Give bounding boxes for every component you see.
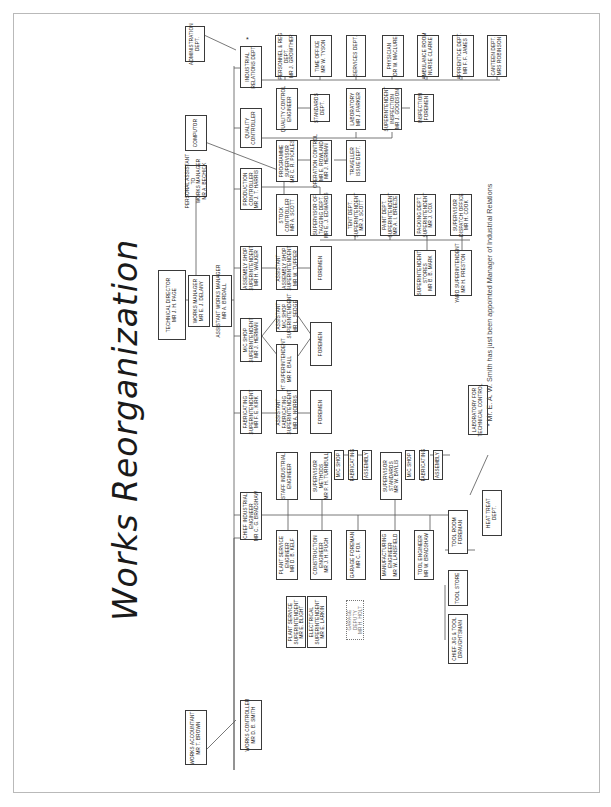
box-label: ELECTRICAL SUPERINTENDENT MR E. LARKIN (309, 600, 326, 645)
chief-industrial-engineer-box: CHIEF INDUSTRIAL ENGINEER MR C. G. BRADS… (240, 492, 262, 540)
box-label: PERSONAL ASSISTANT TO WORKS MANAGER MR A… (185, 154, 207, 209)
box-label: TIME OFFICE MR W. TYSON (315, 40, 326, 73)
chief-jig-tool-box: CHIEF JIG & TOOL DRAUGHTSMAN (448, 614, 468, 664)
supervisor-tagging-box: SUPERVISOR OF TAGGING DEPT. MR E. J. EDW… (310, 194, 332, 236)
box-label: SUPERVISOR OF TAGGING DEPT. MR E. J. EDW… (313, 192, 330, 237)
box-label: FABRICATING SUPERINTENDENT MR F. E. KIRK (243, 390, 260, 435)
connector-lines (0, 0, 611, 807)
services-dept-box: SERVICES DEPT. (346, 35, 366, 77)
box-label: ASSISTANT M/C SHOP SUPERINTENDENT MR L. … (276, 294, 298, 339)
box-label: FOREMEN (318, 400, 324, 424)
electrical-superintendent-box: ELECTRICAL SUPERINTENDENT MR E. LARKIN (307, 596, 327, 648)
box-label: QUALITY CONTROLLER (245, 111, 256, 144)
supervisor-methods-box: SUPERVISOR METHODS MR P. H. TURNBULL (310, 452, 332, 500)
box-label: SUPERINTENDENT STORES MR B. B. MARK (417, 251, 434, 296)
box-label: STAFF INDUSTRIAL ENGINEER (281, 453, 292, 499)
administration-dept-box: ADMINISTRATION DEPT. (185, 26, 205, 62)
superintendent-inspection-box: SUPERINTENDENT INSPECTION MR J. GOODSON (382, 88, 402, 130)
personnel-dept-box: PERSONNEL & REG DEPT. MR J. GROWTHER (275, 35, 297, 77)
apprentice-dept-box: APPRENTICE DEPT. MR F. F. JAMES (452, 35, 474, 77)
industrial-relations-dept-box: INDUSTRIAL RELATIONS DEPT. (240, 46, 262, 88)
box-label: ASSEMBLY SHOP SUPERINTENDENT MR H. WALKE… (243, 246, 260, 291)
stock-controller-box: STOCK CONTROLLER MR A. SCOTT (276, 194, 298, 236)
box-label: AMBULANCE ROOM NURSE CLARKE (422, 33, 433, 80)
canteen-dept-box: CANTEEN DEPT. MRS ROBINSON (487, 35, 507, 77)
works-manager-box: WORKS MANAGER MR E. J. DELANY (188, 275, 210, 327)
plant-service-engineer-box: PLANT SERVICE ENGINEER MR D. B. KELF (276, 530, 298, 580)
box-label: CHIEF INDUSTRIAL ENGINEER MR C. G. BRADS… (243, 491, 260, 541)
box-label: SUPERVISOR DISPATCH OFFICE MR H. COOK (453, 193, 470, 237)
yard-superintendent-box: YARD SUPERINTENDENT MR H. PRESTON (450, 250, 472, 296)
box-label: INDUSTRIAL RELATIONS DEPT. (245, 46, 256, 89)
footnote: * Mr. E. A. W. Smith has just been appoi… (482, 140, 496, 470)
box-label: PAINT DEPT. SUPERINTENDENT MR A. I. BREE… (382, 193, 399, 238)
box-label: SERVICES DEPT. (353, 36, 359, 76)
box-label: PLANT SERVICE ENGINEER MR D. B. KELF (279, 536, 296, 575)
box-label: APPRENTICE DEPT. MR F. F. JAMES (457, 33, 468, 80)
assembly-shop-superintendent-box: ASSEMBLY SHOP SUPERINTENDENT MR H. WALKE… (240, 246, 262, 290)
construction-engineer-box: CONSTRUCTION ENGINEER MR J. H. PUGH (310, 530, 332, 580)
box-label: PHYSICIAN DR W. MACLURE (387, 36, 398, 76)
box-label: SUPERINTENDENT INSPECTION MR J. GOODSON (384, 87, 401, 132)
manufacturing-engineer-box: MANUFACTURING ENGINEER MR W. LANSFIELD (380, 530, 400, 580)
box-label: PROGRAMME SUPERVISOR MR C. R. PICKLES (279, 140, 296, 183)
supervisor-standards-box: SUPERVISOR STANDARDS MR W. BAYLIS (380, 452, 402, 500)
assembly-foremen-box: FOREMEN (310, 246, 332, 290)
box-label: WORKS MANAGER MR E. J. DELANY (193, 279, 204, 323)
box-label: TOOL STORE (455, 572, 461, 603)
box-label: STOCK CONTROLLER MR A. SCOTT (279, 198, 296, 231)
box-label: CONSTRUCTION ENGINEER MR J. H. PUGH (313, 535, 330, 574)
superintendent-stores-box: SUPERINTENDENT STORES MR B. B. MARK (414, 250, 436, 296)
box-label: ASSISTANT ASSEMBLY SHOP SUPERINTENDENT M… (276, 246, 298, 291)
box-label: CHIEF JIG & TOOL DRAUGHTSMAN (452, 617, 463, 660)
box-label: OPERATION CONTROL MR E. ROWLAND MR J. HE… (313, 134, 330, 188)
inspection-foremen-box: INSPECTION FOREMEN (414, 94, 434, 122)
box-label: ASSEMBLY (364, 452, 370, 478)
box-label: PERSONNEL & REG DEPT. MR J. GROWTHER (278, 33, 295, 80)
box-label: ASSEMBLY (435, 452, 441, 478)
box-label: QUALITY CONTROL ENGINEER (281, 86, 292, 132)
fabricating-foremen-box: FOREMEN (310, 390, 332, 434)
box-label: PRODUCTION CONTROLLER MR J. T. HARRIS (243, 170, 260, 208)
box-label: M/C SHOP SUPERINTENDENT MR J. HERMAN (243, 318, 260, 363)
operation-control-box: OPERATION CONTROL MR E. ROWLAND MR J. HE… (310, 140, 332, 182)
box-label: FOREMEN (318, 256, 324, 280)
box-label: GARAGE DEPUTY MR H. HOLT (347, 606, 364, 634)
technical-director-box: TECHNICAL DIRECTOR MR J. H. PAGE (158, 270, 186, 340)
programme-supervisor-box: PROGRAMME SUPERVISOR MR C. R. PICKLES (276, 140, 298, 182)
methods-assembly-box: ASSEMBLY (362, 450, 372, 480)
box-label: M/C SHOP (407, 453, 413, 477)
paint-dept-box: PAINT DEPT. SUPERINTENDENT MR A. I. BREE… (380, 194, 400, 236)
works-controller-box: WORKS CONTROLLER MR D. B. SMITH (240, 700, 262, 750)
box-label: PACKING DEPT. SUPERINTENDENT MR J. COX (417, 193, 434, 238)
methods-mc-shop-box: M/C SHOP (334, 450, 344, 480)
box-label: ADMINISTRATION DEPT. (189, 23, 200, 65)
night-superintendent-box: NIGHT SUPERINTENDENT MR F. BALL (276, 344, 298, 394)
asst-mc-shop-box: ASSISTANT M/C SHOP SUPERINTENDENT MR L. … (276, 300, 298, 332)
tent-dept-box: TENT DEPT. SUPERINTENDENT MR J. SCOTT (346, 194, 366, 236)
personal-assistant-box: PERSONAL ASSISTANT TO WORKS MANAGER MR A… (185, 165, 207, 197)
box-label: TOOL ENGINEER MR W. BRADSHAW (418, 533, 429, 577)
box-label: TECHNICAL DIRECTOR MR J. H. PAGE (166, 278, 177, 333)
physician-box: PHYSICIAN DR W. MACLURE (382, 35, 404, 77)
mc-foremen-box: FOREMEN (310, 322, 332, 366)
box-label: SUPERVISOR METHODS MR P. H. TURNBULL (313, 453, 330, 500)
staff-industrial-engineer-box: STAFF INDUSTRIAL ENGINEER (276, 452, 298, 500)
box-label: TENT DEPT. SUPERINTENDENT MR J. SCOTT (348, 193, 365, 238)
footnote-text: * Mr. E. A. W. Smith has just been appoi… (485, 184, 494, 427)
box-label: FABRICATING (350, 449, 356, 482)
box-label: CANTEEN DEPT. MRS ROBINSON (491, 37, 502, 76)
box-label: HEAT TREAT DEPT. (486, 498, 497, 528)
box-label: TRAVELLER ISSUE DEPT. (350, 146, 361, 176)
box-label: INSPECTION FOREMEN (418, 93, 429, 123)
dispatch-office-box: SUPERVISOR DISPATCH OFFICE MR H. COOK (450, 194, 472, 236)
box-label: WORKS CONTROLLER MR D. B. SMITH (245, 698, 256, 751)
packing-dept-box: PACKING DEPT. SUPERINTENDENT MR J. COX (414, 194, 436, 236)
computor-box: COMPUTOR (185, 115, 207, 151)
box-label: SUPERVISOR STANDARDS MR W. BAYLIS (383, 459, 400, 492)
box-label: MANUFACTURING ENGINEER MR W. LANSFIELD (382, 533, 399, 576)
ambulance-room-box: AMBULANCE ROOM NURSE CLARKE (417, 35, 439, 77)
tool-store-box: TOOL STORE (448, 570, 468, 606)
assistant-works-manager-box: ASSISTANT WORKS MANAGER MR A. BIRDALL (212, 275, 232, 327)
box-label: FOREMEN (318, 332, 324, 356)
